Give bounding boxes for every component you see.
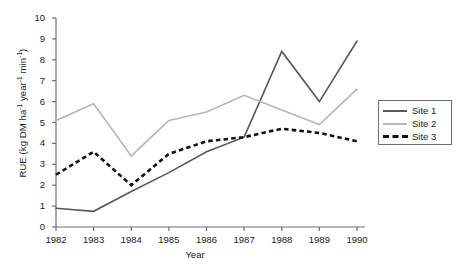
rue-line-chart: RUE (kg DM ha-1 year-1 min-1) 1098765432… [0,0,457,270]
series-line-site-2 [56,89,357,156]
legend-swatch-solid-light-icon [383,119,407,129]
legend-label-site-3: Site 3 [412,131,436,142]
series-line-site-3 [56,129,357,185]
legend-item-site-1: Site 1 [383,104,436,117]
x-axis-tick-label: 1990 [335,235,379,245]
legend-item-site-2: Site 2 [383,117,436,130]
legend-swatch-dashed-icon [383,132,407,142]
legend-label-site-1: Site 1 [412,105,436,116]
series-line-site-1 [56,41,357,211]
legend-swatch-solid-dark-icon [383,106,407,116]
legend-item-site-3: Site 3 [383,130,436,143]
x-axis-title: Year [0,249,390,260]
legend-label-site-2: Site 2 [412,118,436,129]
legend: Site 1 Site 2 Site 3 [378,100,452,145]
